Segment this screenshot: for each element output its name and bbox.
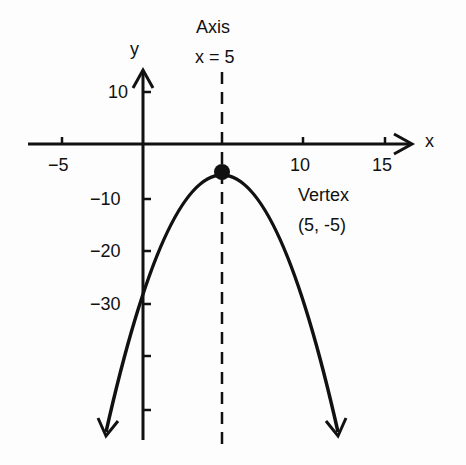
y-tick-label-neg30: −30 [90, 295, 121, 313]
chart-svg [0, 0, 466, 465]
x-tick-label-15: 15 [372, 156, 392, 174]
axis-annotation-equation: x = 5 [195, 48, 235, 66]
vertex-point [214, 164, 230, 180]
y-tick-label-neg20: −20 [90, 242, 121, 260]
axis-annotation-title: Axis [196, 18, 230, 36]
y-axis-label: y [130, 40, 139, 58]
x-axis-label: x [425, 132, 434, 150]
vertex-annotation-title: Vertex [298, 186, 349, 204]
y-tick-label-10: 10 [108, 83, 128, 101]
x-tick-label-10: 10 [290, 156, 310, 174]
chart-figure: Axis x = 5 y x −5 10 15 10 −10 −20 −30 V… [0, 0, 466, 465]
y-tick-label-neg10: −10 [90, 190, 121, 208]
vertex-annotation-coords: (5, -5) [298, 216, 346, 234]
x-tick-label-neg5: −5 [48, 156, 69, 174]
